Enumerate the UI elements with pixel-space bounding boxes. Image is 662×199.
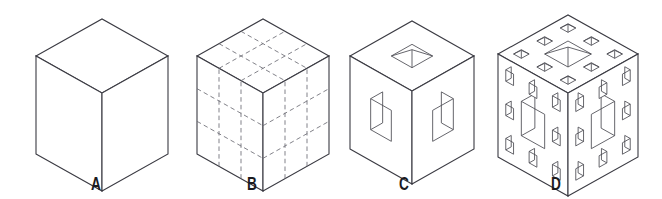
panel-label-a: A — [91, 173, 101, 195]
panel-labels: ABCD — [91, 173, 561, 195]
panel-c-menger-level-1 — [350, 21, 474, 184]
figure-canvas: ABCD — [0, 0, 662, 199]
menger-sponge-figure: ABCD — [0, 0, 662, 199]
panel-label-c: C — [399, 173, 409, 195]
panel-a-cube — [36, 19, 168, 191]
panel-b-subdivided-cube — [197, 19, 329, 191]
panel-label-b: B — [247, 173, 257, 195]
panel-d-menger-level-2 — [498, 15, 638, 196]
panel-label-d: D — [551, 173, 561, 195]
